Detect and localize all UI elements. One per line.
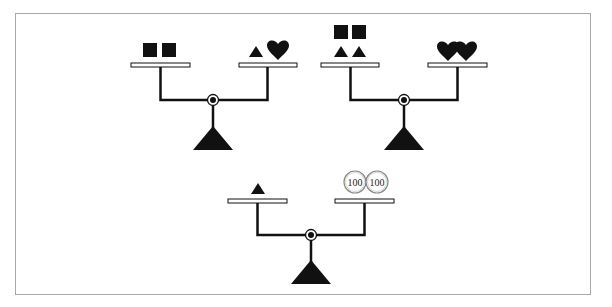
heart-icon — [455, 42, 477, 62]
square-icon — [162, 43, 176, 57]
left-pan — [321, 63, 379, 67]
triangle-icon — [251, 183, 265, 194]
triangle-icon — [352, 46, 366, 57]
triangle-icon — [249, 46, 263, 57]
coin-100: 100 — [344, 171, 366, 193]
fulcrum-triangle — [291, 260, 331, 284]
scale-2 — [321, 25, 487, 150]
coin-label: 100 — [348, 177, 363, 188]
coin-label: 100 — [370, 177, 385, 188]
square-icon — [352, 25, 366, 39]
scale-3: 100 100 — [228, 171, 394, 284]
square-icon — [143, 43, 157, 57]
left-pan — [131, 63, 190, 67]
left-pan — [228, 199, 287, 203]
right-pan — [428, 63, 487, 67]
heart-icon — [267, 41, 289, 61]
scale-1 — [131, 41, 297, 151]
coin-100: 100 — [366, 171, 388, 193]
triangle-icon — [334, 46, 348, 57]
right-pan — [239, 63, 297, 67]
balance-puzzle-diagram: 100 100 — [0, 0, 612, 307]
right-pan — [335, 199, 394, 203]
fulcrum-triangle — [193, 126, 233, 150]
square-icon — [334, 25, 348, 39]
fulcrum-triangle — [384, 126, 424, 150]
